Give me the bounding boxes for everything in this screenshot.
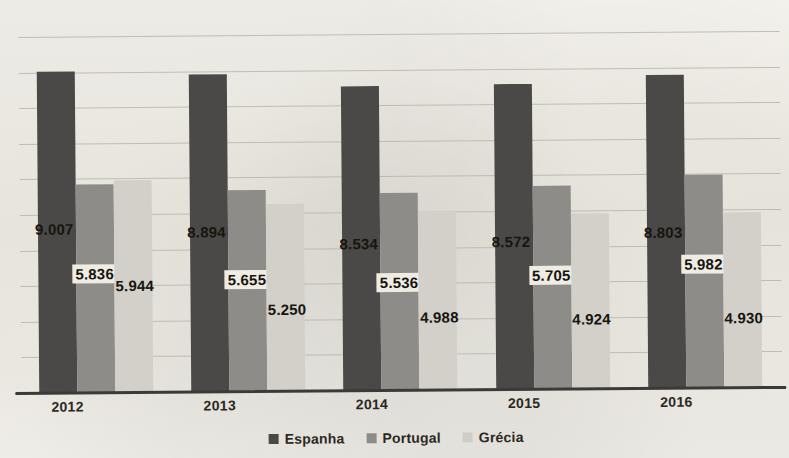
bar-value-label: 8.572 [489, 232, 534, 251]
legend-swatch-icon [269, 434, 279, 444]
bar-value-label: 5.705 [529, 266, 574, 285]
x-axis-label-2012: 2012 [21, 398, 173, 425]
bar-value-label: 8.534 [336, 234, 381, 253]
legend-swatch-icon [366, 433, 376, 443]
bar-value-label: 4.924 [569, 309, 614, 328]
bar-value-label: 8.803 [641, 222, 686, 241]
legend-item-espanha[interactable]: Espanha [269, 430, 345, 447]
x-axis-label-2013: 2013 [174, 397, 326, 424]
bar-value-label: 4.988 [417, 308, 462, 327]
bar-portugal-2014[interactable]: 5.536 [380, 193, 420, 390]
bar-grécia-2012[interactable]: 5.944 [114, 180, 154, 392]
legend-item-grécia[interactable]: Grécia [463, 429, 524, 445]
legend-swatch-icon [463, 432, 473, 442]
bar-groups: 9.0075.8365.9448.8945.6555.2508.5345.536… [18, 31, 782, 393]
bar-portugal-2015[interactable]: 5.705 [532, 186, 572, 389]
legend-label: Espanha [285, 430, 345, 446]
bar-value-label: 5.944 [112, 276, 157, 295]
bar-espanha-2015[interactable]: 8.572 [493, 84, 533, 389]
bar-value-label: 5.836 [72, 264, 117, 283]
bar-value-label: 5.536 [377, 273, 422, 292]
chart-legend: EspanhaPortugalGrécia [2, 427, 789, 449]
bar-group-2014: 8.5345.5364.988 [323, 33, 478, 390]
legend-item-portugal[interactable]: Portugal [366, 430, 441, 447]
bar-value-label: 5.982 [681, 254, 726, 273]
bar-espanha-2014[interactable]: 8.534 [341, 86, 381, 390]
bar-grécia-2013[interactable]: 5.250 [266, 204, 305, 391]
x-axis-label-2014: 2014 [326, 395, 478, 422]
bar-group-2015: 8.5725.7054.924 [475, 32, 630, 389]
bar-grécia-2016[interactable]: 4.930 [723, 212, 762, 388]
bar-grécia-2015[interactable]: 4.924 [570, 213, 609, 389]
bar-espanha-2016[interactable]: 8.803 [646, 74, 686, 388]
bar-value-label: 9.007 [32, 220, 77, 239]
bar-grécia-2014[interactable]: 4.988 [418, 212, 457, 390]
bar-portugal-2012[interactable]: 5.836 [76, 184, 116, 392]
x-axis-labels: 20122013201420152016 [21, 393, 782, 425]
bar-group-2012: 9.0075.8365.944 [18, 36, 173, 393]
bar-value-label: 5.250 [265, 300, 310, 319]
legend-label: Grécia [479, 429, 524, 445]
bar-chart: 9.0075.8365.9448.8945.6555.2508.5345.536… [0, 0, 789, 458]
bar-group-2013: 8.8945.6555.250 [171, 35, 326, 392]
bar-espanha-2012[interactable]: 9.007 [37, 72, 78, 393]
bar-value-label: 4.930 [721, 308, 766, 327]
legend-label: Portugal [382, 430, 441, 446]
x-axis-label-2016: 2016 [630, 393, 782, 420]
bar-group-2016: 8.8035.9824.930 [627, 31, 782, 388]
bar-value-label: 8.894 [184, 223, 229, 242]
bar-portugal-2013[interactable]: 5.655 [228, 190, 268, 392]
bar-portugal-2016[interactable]: 5.982 [684, 174, 724, 387]
bar-espanha-2013[interactable]: 8.894 [189, 75, 229, 392]
bar-value-label: 5.655 [225, 270, 270, 289]
x-axis-label-2015: 2015 [478, 394, 630, 421]
